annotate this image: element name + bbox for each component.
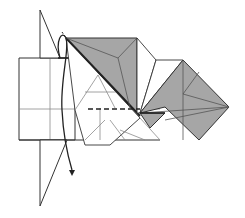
arrowhead-icon	[69, 170, 75, 176]
origami-diagram	[0, 0, 245, 218]
lower-standing-flap	[40, 140, 67, 206]
center-colored-triangle	[140, 113, 165, 128]
